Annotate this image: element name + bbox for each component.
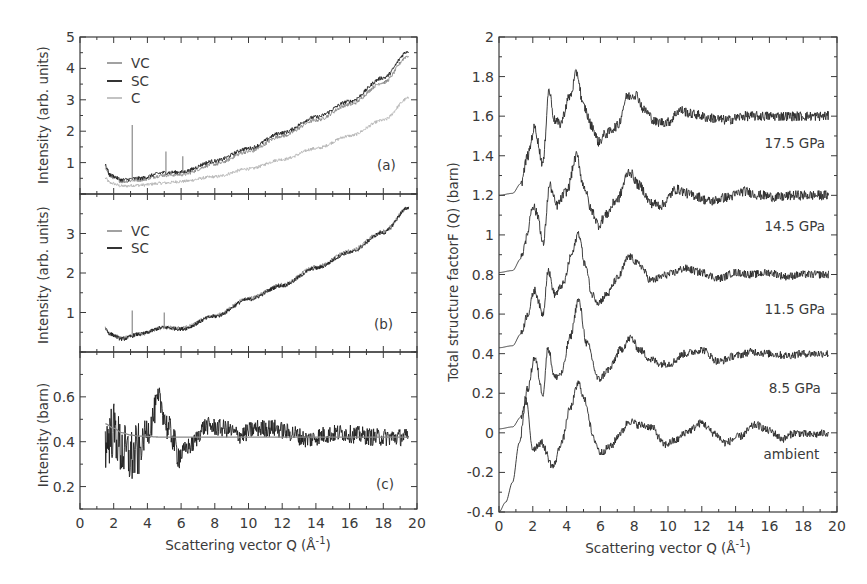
panel-c-label: (c): [376, 476, 394, 492]
panel-c-ytick-labels: 0.20.40.6: [53, 389, 75, 495]
series-sc: [105, 51, 408, 181]
x-tick-label: 10: [240, 515, 258, 531]
series-label: 17.5 GPa: [764, 135, 825, 151]
panel-c-ylabel: Intensity (barn): [35, 383, 51, 487]
panel-c-frame: [80, 352, 417, 509]
left-xlabel-text: Scattering vector Q (Å: [165, 537, 316, 553]
series-label: 11.5 GPa: [764, 301, 825, 317]
y-tick-label: -0.4: [467, 504, 494, 520]
series-sc: [105, 207, 408, 341]
panel-b-legend: VC SC: [107, 223, 150, 256]
panel-b-ytick-labels: 123: [66, 226, 75, 321]
series-label: ambient: [763, 446, 819, 462]
x-tick-label: 2: [109, 515, 118, 531]
x-tick-label: 20: [408, 515, 426, 531]
right-xlabel: Scattering vector Q (Å-1): [585, 538, 751, 556]
panel-a: 12345 Intensity (arb. units) (a) VC SC C: [35, 29, 417, 194]
x-tick-label: 18: [374, 515, 392, 531]
panel-b-curves: [105, 207, 408, 341]
panel-c-ticks: [80, 352, 417, 509]
legend-label-vc: VC: [131, 223, 150, 239]
legend-label-c: C: [131, 90, 140, 106]
panel-c: 0.20.40.6 02468101214161820 Intensity (b…: [35, 352, 426, 553]
legend-label-vc: VC: [131, 55, 150, 71]
y-tick-label: 2: [66, 265, 75, 281]
y-tick-label: 3: [66, 92, 75, 108]
right-xlabel-sup: -1: [736, 538, 746, 549]
y-tick-label: 3: [66, 226, 75, 242]
x-tick-label: 20: [828, 518, 846, 534]
x-tick-label: 14: [307, 515, 325, 531]
series-11-5-gpa: [499, 231, 829, 347]
panel-right-xtick-labels: 02468101214161820: [495, 518, 846, 534]
panel-b-frame: [80, 194, 417, 352]
series-label: 8.5 GPa: [769, 380, 821, 396]
left-xlabel-close: ): [326, 537, 331, 553]
panel-right-series-labels: 17.5 GPa14.5 GPa11.5 GPa8.5 GPaambient: [763, 135, 825, 462]
figure-canvas: 12345 Intensity (arb. units) (a) VC SC C…: [0, 0, 867, 584]
y-tick-label: 0.6: [472, 306, 494, 322]
x-tick-label: 8: [630, 518, 639, 534]
x-tick-label: 12: [273, 515, 291, 531]
left-xlabel-sup: -1: [316, 535, 326, 546]
y-tick-label: 0.4: [53, 434, 75, 450]
x-tick-label: 18: [794, 518, 812, 534]
panel-a-label: (a): [377, 157, 396, 173]
x-tick-label: 0: [495, 518, 504, 534]
y-tick-label: 0.2: [472, 385, 494, 401]
panel-a-ylabel: Intensity (arb. units): [35, 46, 51, 184]
panel-b: 123 Intensity (arb. units) (b) VC SC: [35, 194, 417, 352]
x-tick-label: 2: [528, 518, 537, 534]
series-data: [105, 388, 408, 479]
panel-right-ytick-labels: -0.4-0.200.20.40.60.811.21.41.61.82: [467, 29, 494, 520]
y-tick-label: 0.8: [472, 267, 494, 283]
y-tick-label: 1.6: [472, 108, 494, 124]
x-tick-label: 4: [143, 515, 152, 531]
right-xlabel-text: Scattering vector Q (Å: [585, 540, 736, 556]
x-tick-label: 16: [760, 518, 778, 534]
series-vc: [105, 207, 408, 340]
x-tick-label: 8: [210, 515, 219, 531]
legend-label-sc: SC: [131, 240, 149, 256]
x-tick-label: 16: [341, 515, 359, 531]
panel-b-ticks: [80, 194, 417, 352]
y-tick-label: 5: [66, 29, 75, 45]
x-tick-label: 14: [727, 518, 745, 534]
y-tick-label: 4: [66, 60, 75, 76]
panel-c-curves: [105, 388, 408, 479]
panel-b-label: (b): [374, 316, 393, 332]
y-tick-label: 2: [66, 123, 75, 139]
y-tick-label: -0.2: [467, 464, 494, 480]
panel-b-ylabel: Intensity (arb. units): [35, 206, 51, 344]
left-xlabel: Scattering vector Q (Å-1): [165, 535, 331, 553]
y-tick-label: 1: [66, 305, 75, 321]
series-17-5-gpa: [499, 70, 829, 196]
series-c: [105, 97, 408, 187]
y-tick-label: 0.4: [472, 346, 494, 362]
y-tick-label: 0.2: [53, 479, 75, 495]
panel-right-ylabel: Total structure factorF (Q) (barn): [445, 162, 461, 383]
legend-label-sc: SC: [131, 73, 149, 89]
x-tick-label: 12: [693, 518, 711, 534]
y-tick-label: 1: [485, 227, 494, 243]
right-xlabel-close: ): [746, 540, 751, 556]
panel-c-xtick-labels: 02468101214161820: [76, 515, 426, 531]
panel-a-curves: [105, 51, 408, 187]
y-tick-label: 1.2: [472, 187, 494, 203]
panel-a-ytick-labels: 12345: [66, 29, 75, 171]
series-8-5-gpa: [499, 299, 829, 429]
x-tick-label: 6: [596, 518, 605, 534]
x-tick-label: 10: [659, 518, 677, 534]
series-vc: [105, 56, 408, 183]
x-tick-label: 6: [177, 515, 186, 531]
x-tick-label: 0: [76, 515, 85, 531]
y-tick-label: 1.4: [472, 148, 494, 164]
y-tick-label: 1: [66, 155, 75, 171]
y-tick-label: 2: [485, 29, 494, 45]
series-14-5-gpa: [499, 151, 829, 272]
y-tick-label: 0.6: [53, 389, 75, 405]
x-tick-label: 4: [562, 518, 571, 534]
series-label: 14.5 GPa: [764, 218, 825, 234]
y-tick-label: 0: [485, 425, 494, 441]
y-tick-label: 1.8: [472, 69, 494, 85]
